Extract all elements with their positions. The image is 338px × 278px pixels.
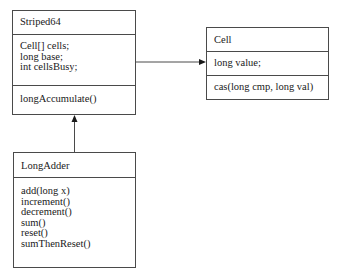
- method-sum-then-reset: sumThenReset(): [21, 239, 135, 250]
- class-striped64: Striped64 Cell[] cells; long base; int c…: [12, 10, 136, 115]
- class-name-striped64: Striped64: [13, 11, 135, 34]
- class-long-adder: LongAdder add(long x) increment() decrem…: [13, 152, 136, 268]
- arrowhead-right-icon: [199, 59, 206, 65]
- class-name-long-adder: LongAdder: [14, 153, 135, 177]
- attributes-section-cell: long value;: [207, 51, 328, 75]
- attribute-value: long value;: [214, 58, 328, 69]
- attributes-section-striped64: Cell[] cells; long base; int cellsBusy;: [13, 34, 135, 85]
- method-long-accumulate: longAccumulate(): [20, 94, 135, 105]
- methods-section-cell: cas(long cmp, long val): [207, 75, 328, 99]
- methods-section-striped64: longAccumulate(): [13, 85, 135, 114]
- method-add: add(long x): [21, 186, 135, 197]
- arrowhead-up-icon: [72, 115, 78, 122]
- method-cas: cas(long cmp, long val): [214, 82, 328, 93]
- attribute-cells-busy: int cellsBusy;: [20, 62, 135, 73]
- class-cell: Cell long value; cas(long cmp, long val): [206, 27, 329, 100]
- class-name-cell: Cell: [207, 28, 328, 51]
- methods-section-long-adder: add(long x) increment() decrement() sum(…: [14, 177, 135, 267]
- attribute-cells: Cell[] cells;: [20, 41, 135, 52]
- inheritance-arrow-long-adder-to-striped64: [72, 115, 78, 152]
- association-arrow-striped64-to-cell: [136, 59, 206, 65]
